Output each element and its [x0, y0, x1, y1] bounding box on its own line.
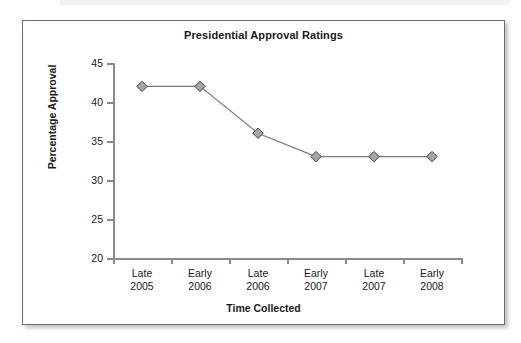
y-axis-tick [107, 219, 113, 221]
x-axis-label-2-line2: 2006 [229, 280, 287, 293]
x-axis-tick [113, 258, 115, 264]
x-axis-tick [287, 258, 289, 264]
x-axis-title: Time Collected [23, 302, 504, 314]
x-axis-tick [461, 258, 463, 264]
y-axis-label-25: 25 [41, 213, 103, 225]
data-point-marker [253, 128, 263, 138]
x-axis-label-0-line2: 2005 [113, 280, 171, 293]
data-point-marker [195, 81, 205, 91]
y-axis-tick [107, 180, 113, 182]
y-axis-label-20: 20 [41, 252, 103, 264]
data-point-marker [137, 81, 147, 91]
y-axis-tick [107, 63, 113, 65]
y-axis-title: Percentage Approval [46, 52, 58, 182]
x-axis-label-0-line1: Late [113, 267, 171, 280]
x-axis-label-5-line2: 2008 [403, 280, 461, 293]
x-axis-label-3: Early 2007 [287, 267, 345, 293]
x-axis-label-1: Early 2006 [171, 267, 229, 293]
series-line [142, 86, 432, 156]
y-axis-tick [107, 141, 113, 143]
x-axis-tick [171, 258, 173, 264]
x-axis-label-1-line1: Early [171, 267, 229, 280]
x-axis-tick [403, 258, 405, 264]
x-axis-label-0: Late 2005 [113, 267, 171, 293]
x-axis-label-3-line2: 2007 [287, 280, 345, 293]
x-axis-tick [229, 258, 231, 264]
x-axis-label-5-line1: Early [403, 267, 461, 280]
x-axis-label-4-line1: Late [345, 267, 403, 280]
x-axis-label-4: Late 2007 [345, 267, 403, 293]
x-axis-label-3-line1: Early [287, 267, 345, 280]
y-axis-line [113, 63, 115, 259]
x-axis-label-2: Late 2006 [229, 267, 287, 293]
x-axis-label-5: Early 2008 [403, 267, 461, 293]
x-axis-tick [345, 258, 347, 264]
x-axis-label-4-line2: 2007 [345, 280, 403, 293]
data-point-marker [369, 151, 379, 161]
chart-title: Presidential Approval Ratings [23, 29, 504, 41]
top-band [60, 0, 510, 5]
chart-figure-card: Presidential Approval Ratings 45 40 35 3… [22, 20, 505, 325]
y-axis-tick [107, 102, 113, 104]
x-axis-label-1-line2: 2006 [171, 280, 229, 293]
x-axis-label-2-line1: Late [229, 267, 287, 280]
data-point-marker [427, 151, 437, 161]
data-point-marker [311, 151, 321, 161]
